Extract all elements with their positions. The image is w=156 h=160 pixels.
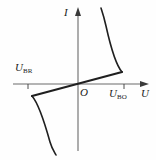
breakdown-voltage-label: UBR xyxy=(15,62,33,73)
current-axis-arrowhead xyxy=(75,7,81,16)
voltage-axis-label: U xyxy=(141,88,149,99)
origin-label: O xyxy=(80,87,88,98)
iv-curve-canvas xyxy=(0,0,156,160)
reverse-conduction-branch xyxy=(32,96,56,155)
breakdown-voltage-subscript: BR xyxy=(23,67,33,75)
forward-conduction-branch xyxy=(101,8,122,72)
iv-characteristic-figure: I U O UBR UBO xyxy=(0,0,156,160)
current-axis-label: I xyxy=(64,7,68,18)
breakover-voltage-subscript: BO xyxy=(117,93,127,101)
breakover-voltage-label: UBO xyxy=(109,88,127,99)
